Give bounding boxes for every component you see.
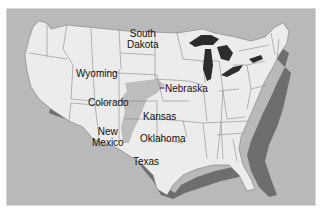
label-oklahoma: Oklahoma [140, 133, 186, 144]
label-south-dakota-line2: Dakota [127, 39, 159, 50]
label-wyoming: Wyoming [76, 68, 118, 79]
map-frame: Wyoming South Dakota Nebraska Colorado K… [6, 8, 316, 206]
label-kansas: Kansas [143, 111, 176, 122]
label-colorado: Colorado [88, 97, 129, 108]
label-new-mexico-line2: Mexico [92, 137, 124, 148]
label-nebraska: Nebraska [165, 83, 208, 94]
us-map [7, 9, 316, 206]
label-south-dakota: South Dakota [127, 28, 159, 50]
label-texas: Texas [133, 156, 159, 167]
label-new-mexico: New Mexico [92, 126, 124, 148]
label-south-dakota-line1: South [127, 28, 159, 39]
label-new-mexico-line1: New [92, 126, 124, 137]
